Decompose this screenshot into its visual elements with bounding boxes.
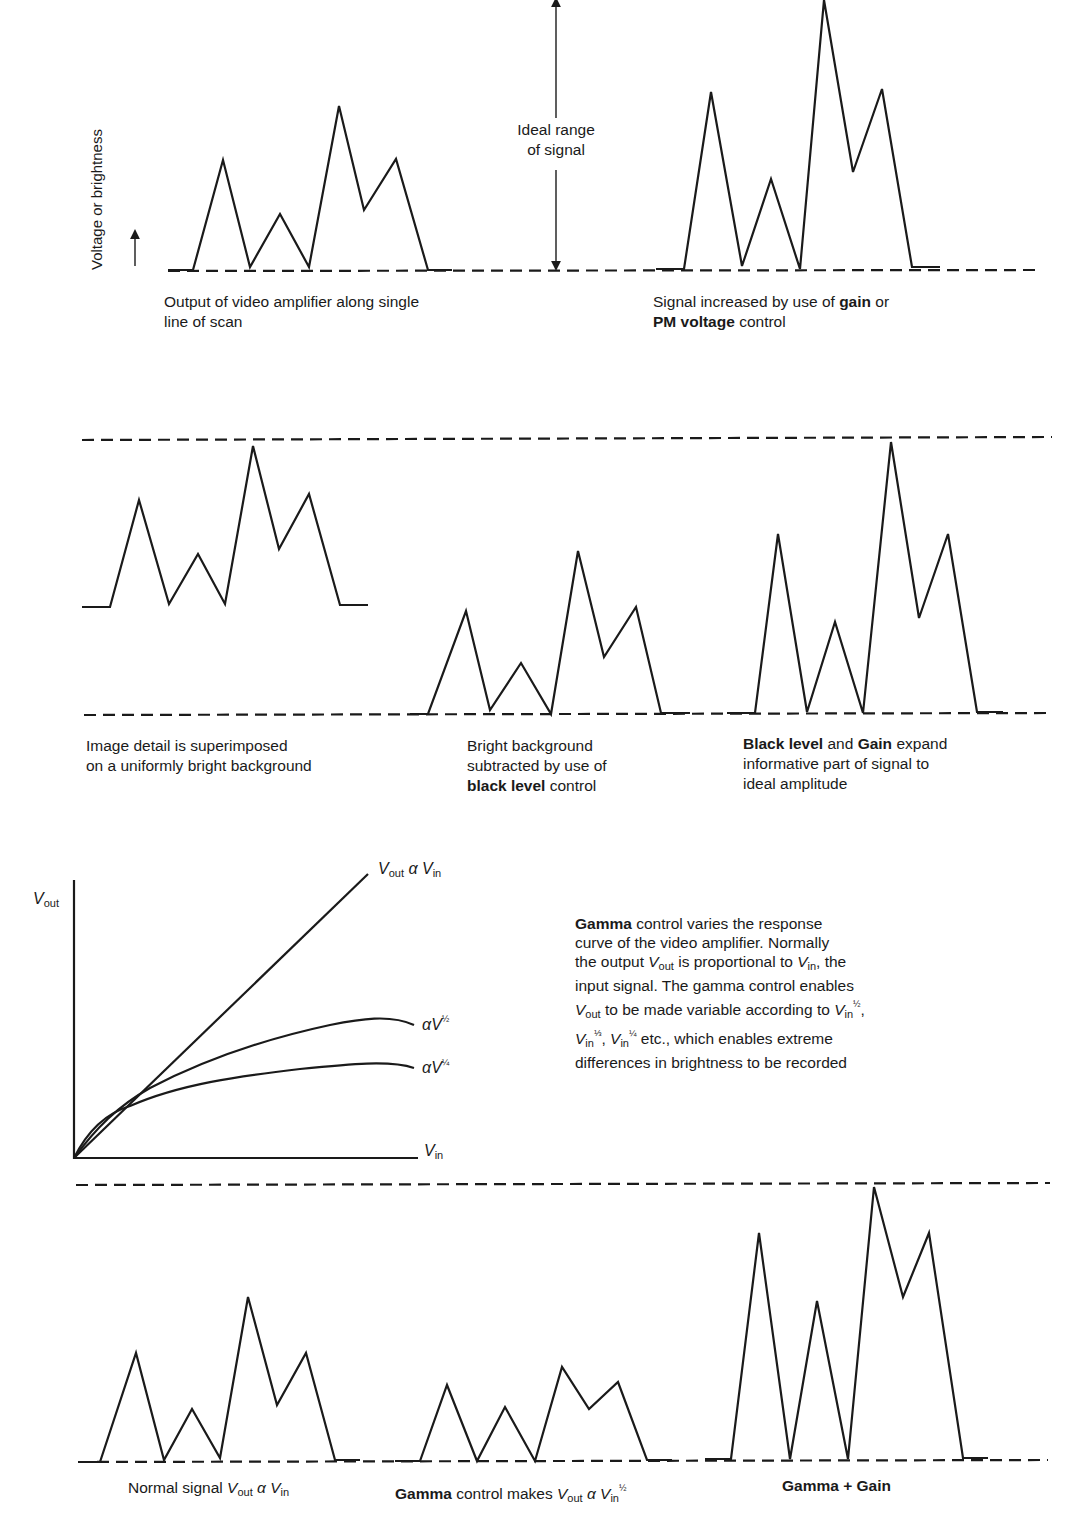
caption-line: black level control [467,776,607,796]
label-v: V [422,860,433,877]
ideal-range-label-line2: of signal [512,140,600,160]
caption-sub: in [281,1486,290,1498]
ideal-range-label-line1: Ideal range [512,120,600,140]
caption-keyword-black-level: Black level [743,735,823,752]
caption-keyword-gamma-gain: Gamma + Gain [782,1477,891,1494]
caption-gamma-plus-gain: Gamma + Gain [782,1476,891,1496]
caption-line: Image detail is superimposed [86,736,312,756]
caption-keyword-pm-voltage: PM voltage [653,313,735,330]
caption-v: V [600,1485,610,1502]
text: to be made variable according to [601,1001,835,1018]
baseline-row1 [168,270,1040,271]
waveform-black-level-subtracted [410,551,690,714]
text: the output [575,953,648,970]
waveform-normal-signal [80,1297,360,1462]
caption-text: or [871,293,889,310]
caption-black-level-and-gain: Black level and Gain expand informative … [743,734,947,794]
caption-bright-background: Image detail is superimposed on a unifor… [86,736,312,776]
waveform-black-level-and-gain [727,442,1003,713]
caption-v: V [227,1479,237,1496]
caption-sub: out [567,1492,582,1504]
text-line: input signal. The gamma control enables [575,976,865,995]
caption-line: Black level and Gain expand [743,734,947,754]
caption-alpha: α [253,1479,270,1496]
label-v: V [33,890,44,907]
caption-sub: out [237,1486,252,1498]
text-sub: out [659,960,674,972]
text-line: curve of the video amplifier. Normally [575,933,865,952]
text-v: V [648,953,658,970]
text-sub: in [807,960,816,972]
curve-half-power [74,1018,414,1158]
curve-quarter-power [74,1063,414,1158]
text: , [861,1001,865,1018]
caption-line: informative part of signal to [743,754,947,774]
baseline-row2 [84,713,1052,715]
label-v: V [424,1142,435,1159]
caption-gain-increased: Signal increased by use of gain or PM vo… [653,292,889,332]
caption-text: expand [892,735,947,752]
label-text: αV [422,1016,442,1033]
label-alpha: α [404,860,422,877]
waveform-gamma [395,1367,672,1461]
quarter-power-curve-label: αV¼ [422,1057,449,1077]
text-line: the output Vout is proportional to Vin, … [575,952,865,976]
label-sub: in [435,1149,444,1161]
text: , the [816,953,846,970]
caption-v: V [270,1479,280,1496]
text: control varies the response [632,915,822,932]
y-axis-label: Voltage or brightness [88,129,105,270]
label-exp: ½ [442,1014,450,1024]
top-reference-row4 [76,1183,1050,1185]
text: is proportional to [674,953,797,970]
text-line: Vin⅓, Vin¼ etc., which enables extreme [575,1024,865,1053]
caption-sub: in [610,1492,619,1504]
caption-line: Signal increased by use of gain or [653,292,889,312]
label-sub: out [44,897,59,909]
text-line: Vout to be made variable according to Vi… [575,995,865,1024]
caption-text: control [735,313,786,330]
keyword-gamma: Gamma [575,915,632,932]
label-exp: ¼ [442,1057,450,1067]
ideal-range-label: Ideal range of signal [512,120,600,160]
caption-line: Output of video amplifier along single [164,292,419,312]
text-exp: ½ [853,999,861,1009]
caption-black-level-subtracted: Bright background subtracted by use of b… [467,736,607,796]
caption-line: line of scan [164,312,419,332]
waveform-gain-increased [656,0,940,269]
caption-keyword-gamma: Gamma [395,1485,452,1502]
text-sub: in [585,1037,594,1049]
caption-alpha: α [583,1485,600,1502]
caption-line: PM voltage control [653,312,889,332]
text: , [601,1030,610,1047]
caption-keyword-black-level: black level [467,777,545,794]
text-v: V [575,1030,585,1047]
label-v: V [378,860,389,877]
caption-keyword-gain: Gain [858,735,892,752]
caption-text: and [823,735,857,752]
caption-text: Normal signal [128,1479,227,1496]
caption-line: ideal amplitude [743,774,947,794]
waveform-gamma-plus-gain [705,1187,988,1459]
text-v: V [834,1001,844,1018]
caption-line: subtracted by use of [467,756,607,776]
gamma-graph-y-label: Vout [33,890,59,909]
waveform-bright-background [82,446,368,607]
caption-v: V [557,1485,567,1502]
gamma-explanation: Gamma control varies the response curve … [575,914,865,1072]
caption-keyword-gain: gain [839,293,871,310]
caption-normal-signal: Normal signal Vout α Vin [128,1478,289,1502]
baseline-row4 [78,1460,1048,1462]
top-reference-row2 [82,437,1052,440]
half-power-curve-label: αV½ [422,1014,449,1034]
gamma-graph-x-label: Vin [424,1142,443,1161]
label-text: αV [422,1059,442,1076]
linear-curve-label: Vout α Vin [378,860,441,879]
caption-line: Bright background [467,736,607,756]
caption-text: control [545,777,596,794]
waveform-original [168,106,452,270]
label-sub: out [389,867,404,879]
caption-original-output: Output of video amplifier along single l… [164,292,419,332]
caption-text: Signal increased by use of [653,293,839,310]
text-sub: in [844,1008,853,1020]
